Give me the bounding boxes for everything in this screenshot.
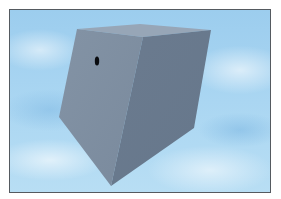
hole-icon: [95, 57, 99, 66]
block-scene: [0, 0, 281, 199]
